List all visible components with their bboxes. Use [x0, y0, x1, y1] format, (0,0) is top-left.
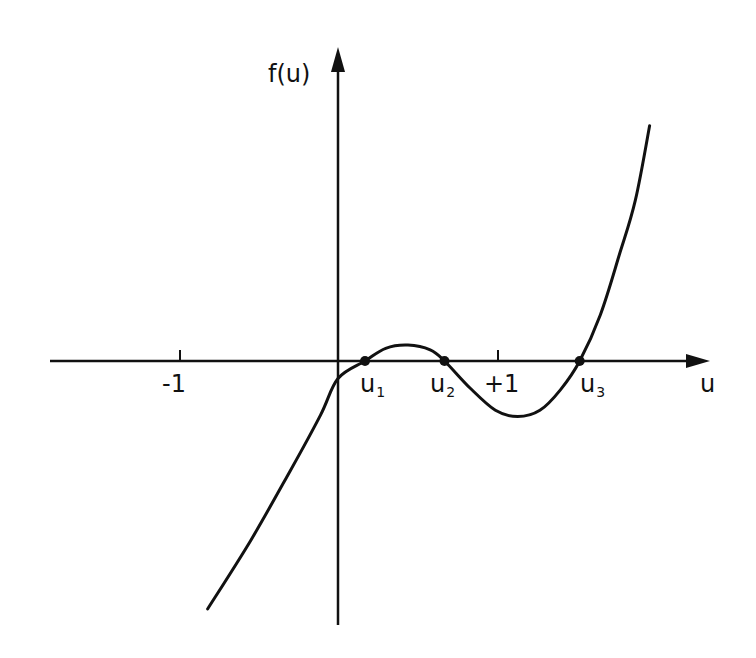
- cubic-function-diagram: [0, 0, 756, 658]
- root-label-u3-sub: 3: [596, 384, 605, 400]
- root-label-u3: u3: [580, 372, 605, 396]
- root-label-u2-sub: 2: [446, 384, 455, 400]
- root-label-u1-base: u: [360, 370, 375, 398]
- function-curve: [208, 126, 650, 609]
- axes: [50, 47, 710, 625]
- root-marker-u2: [440, 356, 450, 366]
- x-axis-label: u: [700, 372, 715, 396]
- root-label-u1: u1: [360, 372, 385, 396]
- x-axis-arrow-icon: [686, 354, 710, 368]
- root-label-u3-base: u: [580, 370, 595, 398]
- root-label-u2: u2: [430, 372, 455, 396]
- root-label-u1-sub: 1: [376, 384, 385, 400]
- root-marker-u1: [360, 356, 370, 366]
- tick-label-neg1: -1: [162, 372, 186, 396]
- root-label-u2-base: u: [430, 370, 445, 398]
- y-axis-label: f(u): [268, 62, 310, 86]
- tick-label-pos1: +1: [484, 372, 519, 396]
- y-axis-arrow-icon: [331, 47, 345, 72]
- root-marker-u3: [575, 356, 585, 366]
